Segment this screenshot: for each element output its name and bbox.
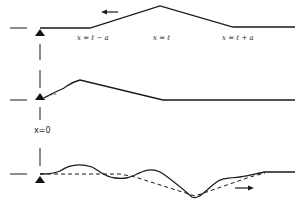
- ideal-reflected-pulse-dashed: [40, 173, 265, 196]
- label-l: x = ℓ: [153, 34, 170, 42]
- wave-diagram: x = ℓ − a x = ℓ x = ℓ + a x=0: [0, 0, 303, 208]
- panel-top: x = ℓ − a x = ℓ x = ℓ + a: [10, 6, 295, 42]
- left-arrow-icon: [101, 10, 118, 15]
- incident-pulse: [44, 80, 295, 100]
- label-l-minus-a: x = ℓ − a: [77, 34, 109, 42]
- label-l-plus-a: x = ℓ + a: [222, 34, 254, 42]
- panel-bottom: [10, 165, 295, 198]
- triangle-support-icon: [35, 176, 45, 183]
- triangle-support-icon: [35, 29, 45, 36]
- triangle-support-icon: [35, 93, 45, 100]
- label-x-zero: x=0: [34, 126, 51, 135]
- panel-middle: x=0: [10, 80, 295, 135]
- distorted-wave: [40, 165, 295, 198]
- triangular-pulse: [40, 6, 295, 28]
- right-arrow-icon: [235, 186, 254, 191]
